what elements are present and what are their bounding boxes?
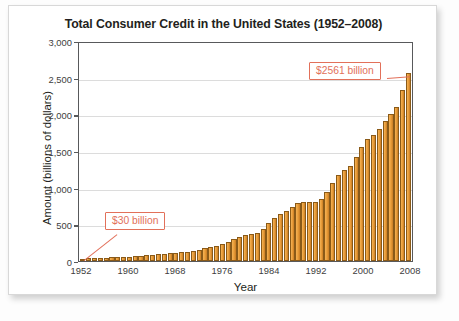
bar [284, 211, 289, 261]
bar [388, 114, 393, 261]
bar [243, 235, 248, 261]
bar [220, 244, 225, 261]
bar [348, 166, 353, 261]
bar [295, 203, 300, 261]
bar [354, 157, 359, 261]
bar [336, 175, 341, 261]
callout-max-value: $2561 billion [309, 62, 381, 80]
bar [377, 129, 382, 261]
bar [173, 253, 178, 261]
bar [179, 252, 184, 261]
chart-card: Total Consumer Credit in the United Stat… [8, 5, 437, 295]
y-tick-mark [74, 225, 78, 226]
bar [185, 252, 190, 261]
bar [301, 202, 306, 261]
bar [313, 202, 318, 261]
bar [231, 239, 236, 261]
x-tick-label: 1976 [199, 265, 245, 276]
bar [191, 251, 196, 261]
bar [406, 73, 411, 261]
bar [261, 229, 266, 261]
bar [197, 250, 202, 262]
bar [272, 218, 277, 261]
bar [168, 253, 173, 261]
bar [249, 234, 254, 261]
bar [371, 135, 376, 261]
bar [383, 121, 388, 261]
bar [400, 90, 405, 261]
y-tick-mark [74, 79, 78, 80]
bar [150, 255, 155, 261]
bar [208, 247, 213, 261]
bar [365, 139, 370, 261]
y-tick-label: 1,500 [32, 147, 72, 158]
bar [278, 214, 283, 261]
bar [255, 233, 260, 261]
y-tick-mark [74, 189, 78, 190]
bar [127, 257, 132, 261]
x-tick-label: 1992 [293, 265, 339, 276]
callout-min-value: $30 billion [105, 212, 165, 230]
bar [359, 147, 364, 261]
bar [144, 255, 149, 261]
y-tick-label: 1,000 [32, 183, 72, 194]
bar [394, 107, 399, 261]
bar [115, 257, 120, 261]
x-tick-label: 1984 [246, 265, 292, 276]
bar [98, 258, 103, 261]
chart-figure: Total Consumer Credit in the United Stat… [0, 0, 459, 321]
bar [342, 170, 347, 261]
y-tick-mark [74, 152, 78, 153]
chart-title: Total Consumer Credit in the United Stat… [9, 17, 438, 31]
x-axis-label: Year [78, 280, 413, 293]
x-tick-label: 2000 [340, 265, 386, 276]
x-tick-label: 2008 [387, 265, 433, 276]
bar [214, 246, 219, 261]
y-tick-mark [74, 262, 78, 263]
bar [319, 199, 324, 261]
bar [162, 254, 167, 261]
y-tick-label: 2,500 [32, 73, 72, 84]
bar [104, 258, 109, 261]
y-tick-mark [74, 42, 78, 43]
x-tick-label: 1952 [58, 265, 104, 276]
y-tick-label: 2,000 [32, 110, 72, 121]
y-tick-mark [74, 115, 78, 116]
x-tick-label: 1968 [152, 265, 198, 276]
bar [324, 192, 329, 261]
bar [133, 256, 138, 261]
bar [290, 207, 295, 261]
y-tick-label: 3,000 [32, 37, 72, 48]
bar [266, 223, 271, 261]
bar [138, 256, 143, 261]
bar [121, 257, 126, 261]
x-tick-label: 1960 [105, 265, 151, 276]
bar [156, 254, 161, 261]
bar [307, 202, 312, 261]
bar [202, 248, 207, 261]
y-tick-label: 500 [32, 220, 72, 231]
bar [226, 242, 231, 261]
bar [330, 183, 335, 261]
bar [92, 258, 97, 261]
bar [237, 237, 242, 261]
bar [109, 257, 114, 261]
